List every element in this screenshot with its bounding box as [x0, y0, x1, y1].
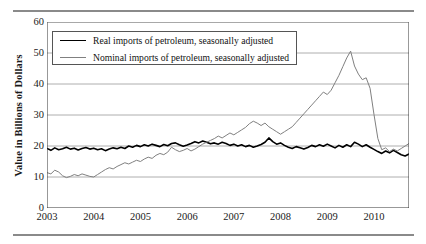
- y-axis-tick-labels: 0102030405060: [18, 0, 44, 244]
- legend-line-swatch-real: [60, 36, 86, 46]
- series-line-real: [47, 138, 409, 156]
- y-tick-label: 10: [22, 172, 44, 182]
- x-tick-label: 2006: [167, 211, 207, 222]
- x-tick-label: 2008: [261, 211, 301, 222]
- x-axis-tick-labels: 20032004200520062007200820092010: [0, 211, 426, 231]
- x-tick-label: 2004: [74, 211, 114, 222]
- series-line-nominal: [47, 51, 409, 177]
- legend-line-swatch-nominal: [60, 53, 86, 63]
- y-tick-label: 20: [22, 141, 44, 151]
- y-tick-label: 30: [22, 110, 44, 120]
- x-tick-label: 2003: [27, 211, 67, 222]
- legend-item-nominal: Nominal imports of petroleum, seasonally…: [53, 49, 296, 66]
- x-tick-label: 2007: [214, 211, 254, 222]
- data-series-layer: [47, 51, 409, 177]
- legend-item-real: Real imports of petroleum, seasonally ad…: [53, 32, 296, 49]
- x-tick-label: 2005: [120, 211, 160, 222]
- x-tick-label: 2009: [307, 211, 347, 222]
- legend-label-nominal: Nominal imports of petroleum, seasonally…: [93, 52, 289, 63]
- y-tick-label: 60: [22, 17, 44, 27]
- y-tick-label: 50: [22, 48, 44, 58]
- legend-label-real: Real imports of petroleum, seasonally ad…: [93, 35, 273, 46]
- chart-legend: Real imports of petroleum, seasonally ad…: [52, 31, 297, 65]
- top-divider-rule: [13, 10, 414, 12]
- bottom-divider-rule: [13, 234, 414, 236]
- y-tick-label: 40: [22, 79, 44, 89]
- x-tick-label: 2010: [354, 211, 394, 222]
- figure: Value in Billions of Dollars 01020304050…: [0, 0, 426, 244]
